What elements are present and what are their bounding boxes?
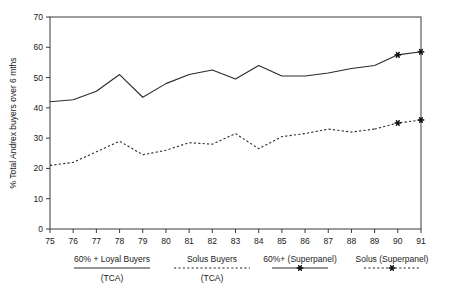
legend-sublabel: (TCA) — [101, 273, 124, 283]
x-tick-label: 77 — [92, 236, 102, 246]
y-tick-label: 30 — [34, 133, 44, 143]
y-axis-title: % Total Andrex buyers over 6 mths — [8, 57, 18, 188]
x-tick-label: 82 — [208, 236, 218, 246]
x-tick-label: 76 — [68, 236, 78, 246]
chart-figure: % Total Andrex buyers over 6 mths 010203… — [0, 0, 458, 305]
series-line — [50, 129, 375, 165]
x-tick-label: 87 — [324, 236, 334, 246]
legend-label: 60% + Loyal Buyers — [74, 254, 150, 264]
x-tick-label: 75 — [45, 236, 55, 246]
legend-label: Solus (Superpanel) — [356, 254, 429, 264]
data-point-star-marker — [297, 265, 303, 271]
y-axis-ticks: 010203040506070 — [34, 12, 50, 234]
chart-legend: 60% + Loyal Buyers(TCA)Solus Buyers(TCA)… — [74, 254, 429, 283]
data-point-star-marker — [395, 120, 401, 126]
x-tick-label: 83 — [231, 236, 241, 246]
y-tick-label: 50 — [34, 73, 44, 83]
data-point-star-marker — [389, 265, 395, 271]
plot-frame — [50, 17, 421, 229]
plot-border — [50, 17, 421, 229]
x-tick-label: 91 — [416, 236, 426, 246]
x-tick-label: 78 — [115, 236, 125, 246]
x-tick-label: 84 — [254, 236, 264, 246]
x-tick-label: 81 — [184, 236, 194, 246]
data-point-star-marker — [395, 52, 401, 58]
y-axis-title-text: % Total Andrex buyers over 6 mths — [8, 57, 18, 188]
x-tick-label: 85 — [277, 236, 287, 246]
y-tick-label: 20 — [34, 163, 44, 173]
y-tick-label: 60 — [34, 42, 44, 52]
line-chart: % Total Andrex buyers over 6 mths 010203… — [0, 0, 458, 305]
x-tick-label: 88 — [347, 236, 357, 246]
y-tick-label: 0 — [38, 224, 43, 234]
x-tick-label: 80 — [161, 236, 171, 246]
legend-label: Solus Buyers — [187, 254, 237, 264]
legend-label: 60%+ (Superpanel) — [263, 254, 337, 264]
y-tick-label: 10 — [34, 194, 44, 204]
x-tick-label: 86 — [300, 236, 310, 246]
data-series-layer — [50, 49, 424, 165]
x-tick-label: 89 — [370, 236, 380, 246]
y-tick-label: 70 — [34, 12, 44, 22]
legend-sublabel: (TCA) — [201, 273, 224, 283]
x-axis-ticks: 7576777879808182838485868788899091 — [45, 229, 426, 246]
y-tick-label: 40 — [34, 103, 44, 113]
x-tick-label: 79 — [138, 236, 148, 246]
series-line — [50, 65, 375, 101]
series-line — [375, 120, 421, 129]
x-tick-label: 90 — [393, 236, 403, 246]
